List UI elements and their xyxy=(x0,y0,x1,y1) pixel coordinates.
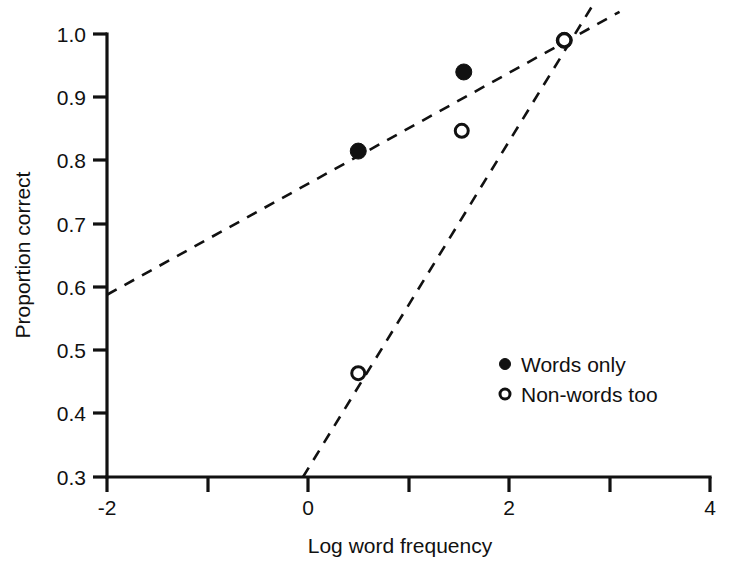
filled-circle-icon xyxy=(500,359,511,370)
scatter-chart: 1.0 0.9 0.8 0.7 0.6 0.5 0.4 0.3 Proporti… xyxy=(0,0,745,574)
data-point xyxy=(350,143,366,159)
data-point xyxy=(456,64,472,80)
axis-x: -2 0 2 4 Log word frequency xyxy=(98,477,717,557)
series-markers-non-words-too xyxy=(352,34,571,380)
axis-y: 1.0 0.9 0.8 0.7 0.6 0.5 0.4 0.3 Proporti… xyxy=(11,23,107,489)
legend-item-words-only: Words only xyxy=(500,353,627,376)
data-point xyxy=(558,34,571,47)
y-ticklabel-0.6: 0.6 xyxy=(57,276,86,299)
data-point xyxy=(455,124,468,137)
y-ticklabel-1.0: 1.0 xyxy=(57,23,86,46)
legend-label-words-only: Words only xyxy=(521,353,626,376)
y-ticklabel-0.5: 0.5 xyxy=(57,339,86,362)
y-ticklabel-0.7: 0.7 xyxy=(57,213,86,236)
x-ticklabel-0: 0 xyxy=(302,496,314,519)
x-ticklabel-2: 2 xyxy=(503,496,515,519)
figure-root: 1.0 0.9 0.8 0.7 0.6 0.5 0.4 0.3 Proporti… xyxy=(0,0,745,574)
y-ticklabel-0.3: 0.3 xyxy=(57,466,86,489)
legend: Words only Non-words too xyxy=(500,353,658,406)
open-circle-icon xyxy=(500,389,510,399)
y-axis-title: Proportion correct xyxy=(11,171,34,338)
legend-item-non-words-too: Non-words too xyxy=(500,383,658,406)
y-ticklabel-0.9: 0.9 xyxy=(57,86,86,109)
data-point xyxy=(352,367,365,380)
x-ticklabel-4: 4 xyxy=(704,496,716,519)
legend-label-non-words-too: Non-words too xyxy=(521,383,658,406)
series-markers-words-only xyxy=(350,32,572,159)
y-ticklabel-0.8: 0.8 xyxy=(57,149,86,172)
y-ticklabel-0.4: 0.4 xyxy=(57,402,87,425)
x-ticklabel--2: -2 xyxy=(98,496,117,519)
x-axis-title: Log word frequency xyxy=(308,534,493,557)
